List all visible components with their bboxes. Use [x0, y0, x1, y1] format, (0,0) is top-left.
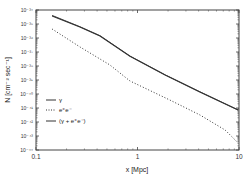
y-tick-label: 10⁻³⁵: [21, 21, 33, 27]
series-line-2: [52, 15, 238, 110]
x-tick-label: 10: [235, 153, 243, 160]
series-line-0: [52, 16, 238, 110]
series-line-1: [52, 29, 238, 143]
y-tick-label: 10⁻³⁴: [21, 7, 33, 13]
legend-label: (γ + e⁺e⁻): [59, 118, 86, 124]
y-tick-label: 10⁻³⁷: [21, 49, 33, 55]
x-axis-label: x [Mpc]: [126, 166, 149, 174]
y-tick-label: 10⁻³⁶: [21, 35, 33, 41]
legend: γe⁺e⁻(γ + e⁺e⁻): [46, 97, 86, 124]
y-axis-ticks: 10⁻³⁴10⁻³⁵10⁻³⁶10⁻³⁷10⁻³⁸10⁻³⁹10⁻⁴⁰10⁻⁴¹…: [20, 7, 239, 153]
y-tick-label: 10⁻⁴⁰: [20, 91, 33, 97]
y-tick-label: 10⁻⁴⁴: [20, 147, 33, 153]
y-tick-label: 10⁻³⁸: [21, 63, 33, 69]
y-tick-label: 10⁻³⁹: [21, 77, 33, 83]
y-tick-label: 10⁻⁴¹: [21, 105, 34, 111]
x-tick-label: 0.1: [31, 153, 40, 160]
y-tick-label: 10⁻⁴²: [21, 119, 34, 125]
y-tick-label: 10⁻⁴³: [21, 133, 34, 139]
chart: 10⁻³⁴10⁻³⁵10⁻³⁶10⁻³⁷10⁻³⁸10⁻³⁹10⁻⁴⁰10⁻⁴¹…: [0, 0, 246, 177]
legend-label: γ: [59, 97, 62, 103]
y-axis-label: N [cm⁻² sec⁻¹]: [4, 57, 12, 103]
x-tick-label: 1: [136, 153, 140, 160]
legend-label: e⁺e⁻: [59, 107, 72, 113]
plot-frame: [36, 10, 239, 150]
